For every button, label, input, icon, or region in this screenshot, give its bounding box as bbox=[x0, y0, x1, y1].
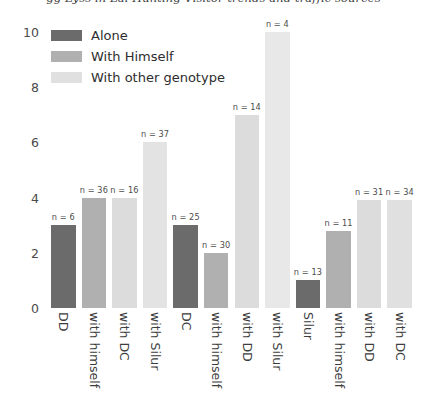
bar-sample-size-label: n = 34 bbox=[386, 187, 414, 197]
y-axis-tick-label: 4 bbox=[31, 190, 39, 205]
y-axis-tick-label: 8 bbox=[31, 80, 39, 95]
legend-label: Alone bbox=[91, 28, 128, 43]
bar-sample-size-label: n = 30 bbox=[202, 240, 230, 250]
bar-sample-size-label: n = 16 bbox=[110, 185, 138, 195]
bar[interactable] bbox=[235, 115, 259, 308]
bar-chart-figure: gg Lyss in Lai Hunting Visitor trends an… bbox=[0, 0, 427, 415]
bar-column: n = 34 bbox=[384, 32, 415, 308]
bar-sample-size-label: n = 13 bbox=[294, 267, 322, 277]
x-axis-tick-text: with DD bbox=[239, 312, 254, 362]
x-axis-tick-text: with DC bbox=[117, 312, 132, 361]
bar-column: n = 4 bbox=[262, 32, 293, 308]
y-axis-tick-label: 10 bbox=[23, 25, 39, 40]
bar[interactable] bbox=[143, 142, 167, 308]
legend-swatch-icon bbox=[51, 30, 82, 41]
x-axis-tick-text: with DC bbox=[392, 312, 407, 361]
legend-swatch-icon bbox=[51, 72, 82, 83]
x-axis-tick-text: with himself bbox=[209, 312, 224, 388]
bar-sample-size-label: n = 11 bbox=[324, 218, 352, 228]
bar[interactable] bbox=[82, 198, 106, 308]
x-axis-tick-text: DD bbox=[56, 312, 71, 331]
legend-label: With Himself bbox=[91, 49, 174, 64]
bar-sample-size-label: n = 31 bbox=[355, 187, 383, 197]
y-axis: 0246810 bbox=[0, 0, 48, 415]
bar-column: n = 13 bbox=[293, 32, 324, 308]
y-axis-tick-label: 2 bbox=[31, 245, 39, 260]
x-axis-tick-text: with himself bbox=[86, 312, 101, 388]
chart-legend: AloneWith HimselfWith other genotype bbox=[51, 26, 225, 86]
bar[interactable] bbox=[357, 200, 381, 308]
x-axis-tick-text: with DD bbox=[362, 312, 377, 362]
y-axis-tick-label: 6 bbox=[31, 135, 39, 150]
bar-sample-size-label: n = 25 bbox=[171, 212, 199, 222]
bar[interactable] bbox=[387, 200, 411, 308]
x-axis: DDwith himselfwith DCwith SilurDCwith hi… bbox=[48, 312, 415, 415]
bar[interactable] bbox=[112, 198, 136, 308]
legend-item[interactable]: With Himself bbox=[51, 47, 225, 65]
bar[interactable] bbox=[51, 225, 75, 308]
bar-sample-size-label: n = 6 bbox=[52, 212, 75, 222]
bar-sample-size-label: n = 4 bbox=[266, 19, 289, 29]
bar-column: n = 11 bbox=[323, 32, 354, 308]
bar[interactable] bbox=[296, 280, 320, 308]
legend-swatch-icon bbox=[51, 51, 82, 62]
cropped-caption-text: gg Lyss in Lai Hunting Visitor trends an… bbox=[0, 0, 427, 5]
bar[interactable] bbox=[265, 32, 289, 308]
bar-column: n = 31 bbox=[354, 32, 385, 308]
bar[interactable] bbox=[326, 231, 350, 308]
x-axis-tick-text: DC bbox=[178, 312, 193, 330]
legend-label: With other genotype bbox=[91, 70, 225, 85]
y-axis-tick-label: 0 bbox=[31, 301, 39, 316]
x-axis-tick-text: with himself bbox=[331, 312, 346, 388]
x-axis-tick-text: with Silur bbox=[270, 312, 285, 370]
x-axis-tick-text: Silur bbox=[300, 312, 315, 340]
bar[interactable] bbox=[204, 253, 228, 308]
legend-item[interactable]: With other genotype bbox=[51, 68, 225, 86]
bar-sample-size-label: n = 14 bbox=[233, 102, 261, 112]
legend-item[interactable]: Alone bbox=[51, 26, 225, 44]
x-axis-tick-text: with Silur bbox=[148, 312, 163, 370]
bar-sample-size-label: n = 37 bbox=[141, 129, 169, 139]
bar-column: n = 14 bbox=[232, 32, 263, 308]
bar[interactable] bbox=[173, 225, 197, 308]
bar-sample-size-label: n = 36 bbox=[80, 185, 108, 195]
